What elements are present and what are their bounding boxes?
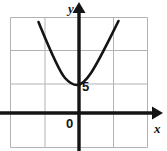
figure-background <box>0 0 167 151</box>
y-axis-label: y <box>66 1 74 16</box>
x-axis-label: x <box>153 121 161 136</box>
y-intercept-label: 5 <box>82 79 89 94</box>
origin-label: 0 <box>66 116 73 131</box>
graph-figure: y x 0 5 <box>0 0 167 151</box>
